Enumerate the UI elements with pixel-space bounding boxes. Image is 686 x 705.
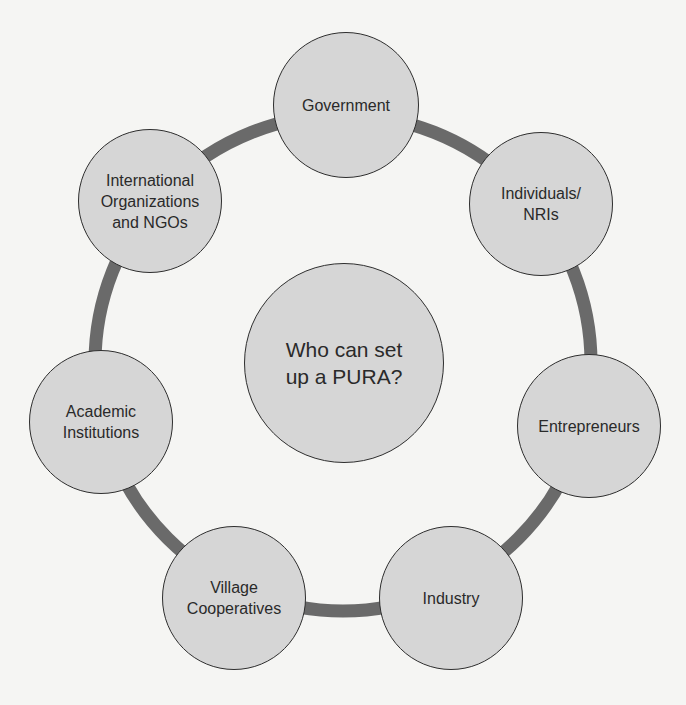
node-entrepreneurs: Entrepreneurs: [517, 354, 661, 498]
node-label-entrepreneurs: Entrepreneurs: [538, 416, 639, 437]
node-village-cooperatives: Village Cooperatives: [162, 526, 306, 670]
node-industry: Industry: [379, 526, 523, 670]
node-international-organizations-ngos: International Organizations and NGOs: [78, 129, 222, 273]
center-question-node: Who can set up a PURA?: [244, 263, 444, 463]
node-label-government: Government: [302, 95, 390, 116]
node-label-individuals-nris: Individuals/ NRIs: [501, 183, 581, 225]
node-government: Government: [273, 32, 419, 178]
node-label-village-cooperatives: Village Cooperatives: [187, 577, 281, 619]
node-label-industry: Industry: [423, 588, 480, 609]
node-label-international-organizations-ngos: International Organizations and NGOs: [101, 170, 200, 233]
node-academic-institutions: Academic Institutions: [29, 350, 173, 494]
center-question-label: Who can set up a PURA?: [286, 336, 403, 390]
pura-diagram: Who can set up a PURA? Government Indivi…: [0, 0, 686, 705]
node-individuals-nris: Individuals/ NRIs: [469, 132, 613, 276]
node-label-academic-institutions: Academic Institutions: [63, 401, 139, 443]
